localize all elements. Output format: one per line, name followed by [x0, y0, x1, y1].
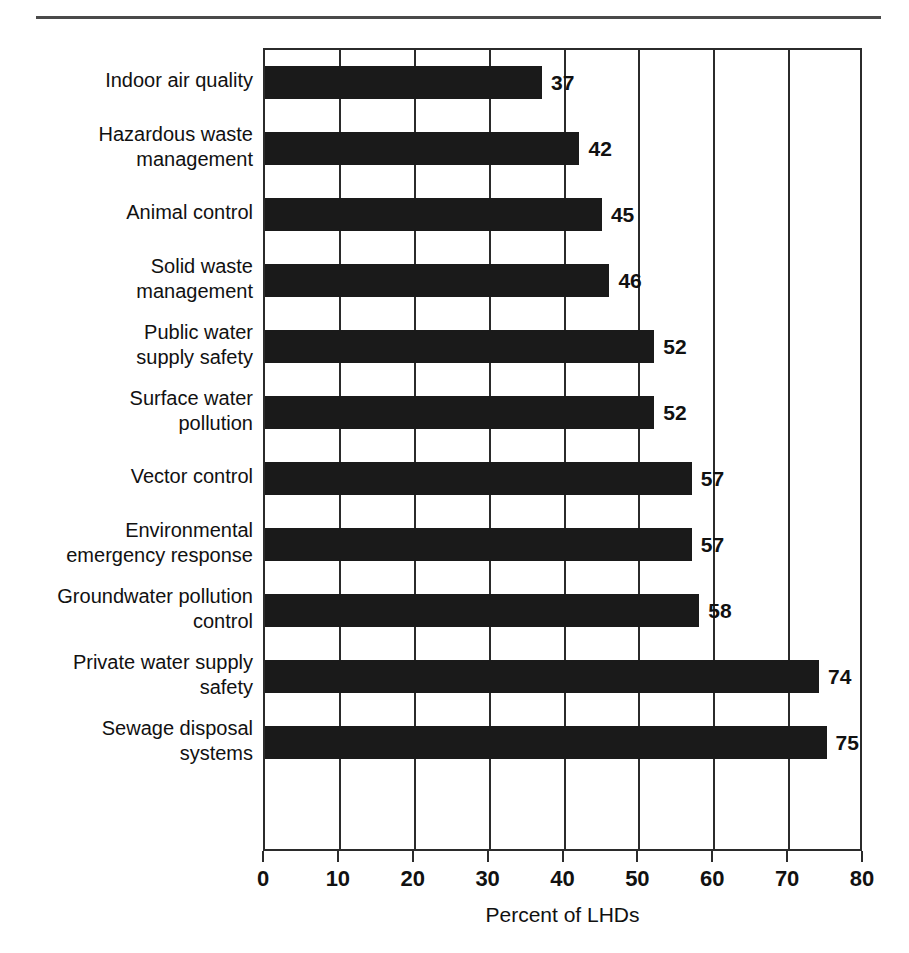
x-tick-label: 10: [308, 866, 368, 892]
bar-chart: Indoor air qualityHazardous waste manage…: [0, 0, 909, 953]
x-tick-mark: [562, 851, 564, 862]
bar-row: 46: [265, 248, 860, 314]
bar-value-label: 75: [827, 726, 859, 759]
bar: [265, 330, 654, 363]
bar-row: 58: [265, 578, 860, 644]
category-label: Vector control: [18, 464, 253, 489]
bar-row: 42: [265, 116, 860, 182]
category-label: Environmental emergency response: [18, 518, 253, 568]
x-tick-label: 70: [757, 866, 817, 892]
bar-row: 52: [265, 380, 860, 446]
bar-row: 57: [265, 512, 860, 578]
category-label: Hazardous waste management: [18, 122, 253, 172]
bar-row: 74: [265, 644, 860, 710]
bar: [265, 264, 609, 297]
x-tick-mark: [487, 851, 489, 862]
x-tick-label: 0: [233, 866, 293, 892]
bar-value-label: 52: [654, 396, 686, 429]
bar-value-label: 57: [692, 462, 724, 495]
x-tick-mark: [861, 851, 863, 862]
x-tick-mark: [786, 851, 788, 862]
plot-area: 3742454652525757587475: [263, 48, 862, 851]
category-label: Groundwater pollution control: [18, 584, 253, 634]
category-label: Surface water pollution: [18, 386, 253, 436]
bar: [265, 528, 692, 561]
bar-row: 57: [265, 446, 860, 512]
bar-row: 75: [265, 710, 860, 776]
bar: [265, 594, 699, 627]
bar-value-label: 74: [819, 660, 851, 693]
category-label: Public water supply safety: [18, 320, 253, 370]
bar-value-label: 42: [579, 132, 611, 165]
bar-row: 52: [265, 314, 860, 380]
x-tick-mark: [711, 851, 713, 862]
chart-page: Indoor air qualityHazardous waste manage…: [0, 0, 909, 953]
bar-value-label: 46: [609, 264, 641, 297]
bar: [265, 396, 654, 429]
bar-row: 45: [265, 182, 860, 248]
bar-value-label: 45: [602, 198, 634, 231]
x-tick-label: 30: [458, 866, 518, 892]
bar-value-label: 52: [654, 330, 686, 363]
x-tick-label: 40: [533, 866, 593, 892]
category-label: Animal control: [18, 200, 253, 225]
category-label: Solid waste management: [18, 254, 253, 304]
x-tick-label: 20: [383, 866, 443, 892]
bar: [265, 132, 579, 165]
category-label: Indoor air quality: [18, 68, 253, 93]
x-tick-label: 50: [607, 866, 667, 892]
category-label: Private water supply safety: [18, 650, 253, 700]
bar-value-label: 37: [542, 66, 574, 99]
bar: [265, 660, 819, 693]
bar: [265, 66, 542, 99]
category-axis-labels: Indoor air qualityHazardous waste manage…: [18, 48, 253, 851]
category-label: Sewage disposal systems: [18, 716, 253, 766]
x-axis-title: Percent of LHDs: [263, 903, 862, 927]
bar-value-label: 58: [699, 594, 731, 627]
bar: [265, 198, 602, 231]
x-tick-label: 60: [682, 866, 742, 892]
bar: [265, 726, 827, 759]
x-tick-mark: [337, 851, 339, 862]
x-tick-mark: [636, 851, 638, 862]
x-tick-label: 80: [832, 866, 892, 892]
bar-row: 37: [265, 50, 860, 116]
bar: [265, 462, 692, 495]
x-tick-mark: [412, 851, 414, 862]
x-tick-mark: [262, 851, 264, 862]
bar-value-label: 57: [692, 528, 724, 561]
